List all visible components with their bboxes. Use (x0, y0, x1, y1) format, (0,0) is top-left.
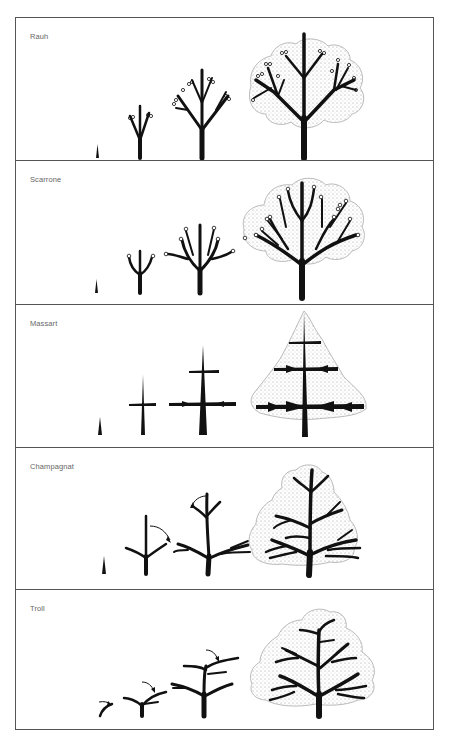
panel-scarrone: Scarrone (16, 160, 433, 304)
young-tree-icon (129, 251, 152, 293)
branching-tree-icon (172, 658, 238, 716)
seedling-icon (96, 144, 99, 158)
panel-troll: Troll (16, 589, 433, 731)
young-tree-icon (129, 375, 156, 435)
branching-tree-icon (174, 494, 250, 574)
young-tree-icon (130, 106, 149, 158)
figure-frame: Rauh (15, 17, 434, 730)
troll-trees-illustration (16, 590, 435, 732)
bend-arrow-icon (192, 496, 206, 506)
mature-tree-icon (250, 609, 374, 716)
mature-tree-icon (243, 178, 364, 298)
seedling-icon (100, 704, 112, 716)
panel-champagnat: Champagnat (16, 447, 433, 589)
branching-tree-icon (169, 345, 236, 435)
rauh-trees-illustration (16, 18, 435, 160)
seedling-icon (102, 556, 106, 574)
panel-rauh: Rauh (16, 18, 433, 160)
branching-tree-icon (166, 225, 233, 293)
mature-tree-icon (249, 34, 363, 158)
panel-massart: Massart (16, 304, 433, 447)
mature-tree-icon (251, 311, 366, 437)
young-tree-icon (126, 516, 166, 574)
branching-tree-icon (176, 70, 228, 158)
massart-trees-illustration (16, 305, 435, 448)
champagnat-trees-illustration (16, 448, 435, 590)
bend-arrow-icon (150, 526, 170, 540)
seedling-icon (98, 417, 102, 435)
scarrone-trees-illustration (16, 161, 435, 305)
mature-tree-icon (249, 465, 360, 575)
young-tree-icon (124, 692, 166, 716)
seedling-icon (95, 279, 98, 293)
